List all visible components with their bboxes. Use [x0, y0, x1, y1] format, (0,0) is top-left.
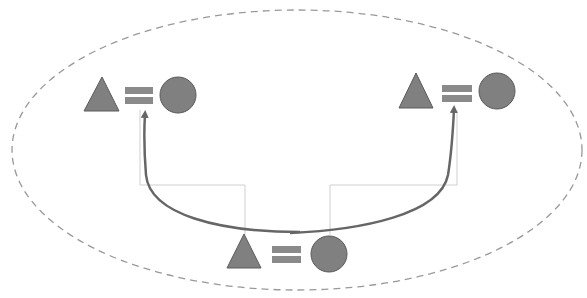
triangle-icon	[84, 77, 119, 111]
equals-icon-bottom-bar	[272, 256, 301, 263]
circle-icon	[160, 77, 196, 113]
group-bottom-center	[227, 234, 347, 272]
group-top-right	[399, 73, 515, 109]
arrow-to-top-right	[290, 109, 454, 233]
arrow-to-top-left	[144, 114, 300, 232]
equals-icon-top-bar	[272, 246, 301, 253]
equals-icon-top-bar	[442, 85, 472, 92]
equals-icon-top-bar	[125, 87, 153, 94]
diagram-svg	[0, 0, 587, 298]
triangle-icon	[399, 73, 433, 108]
circle-icon	[479, 73, 515, 109]
circle-icon	[311, 236, 347, 272]
connector-line-left	[140, 110, 245, 235]
group-top-left	[84, 77, 196, 113]
diagram-canvas	[0, 0, 587, 298]
equals-icon-bottom-bar	[125, 97, 153, 104]
triangle-icon	[227, 234, 261, 268]
equals-icon-bottom-bar	[442, 95, 472, 102]
